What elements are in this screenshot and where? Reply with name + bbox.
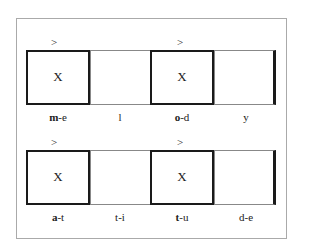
marked-box: X [150,150,214,205]
arrow-marker: > [177,36,183,48]
empty-cell [90,150,152,205]
box-label: a-t [28,211,88,223]
marked-box: X [26,150,90,205]
cell-label: l [90,111,150,123]
empty-cell [214,150,276,205]
arrow-marker: > [51,136,57,148]
diagram-row-1: > X m-e l > X o-d y [26,36,276,116]
box-symbol: X [152,69,212,85]
box-label: m-e [28,111,88,123]
box-label: o-d [152,111,212,123]
marked-box: X [150,50,214,105]
cell-label: d-e [216,211,276,223]
marked-box: X [26,50,90,105]
box-symbol: X [28,69,88,85]
box-symbol: X [152,169,212,185]
empty-cell [214,50,276,105]
cell-label: t-i [90,211,150,223]
arrow-marker: > [177,136,183,148]
empty-cell [90,50,152,105]
box-label: t-u [152,211,212,223]
box-symbol: X [28,169,88,185]
diagram-row-2: > X a-t t-i > X t-u d-e [26,136,276,216]
cell-label: y [216,111,276,123]
arrow-marker: > [51,36,57,48]
